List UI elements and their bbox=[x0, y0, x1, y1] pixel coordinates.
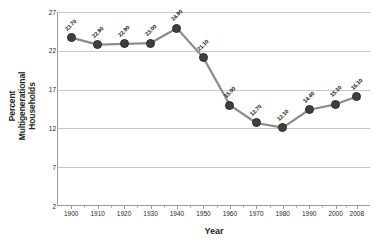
x-tick-mark bbox=[336, 206, 337, 209]
data-point-label: 22.80 bbox=[90, 25, 104, 39]
x-axis-title: Year bbox=[58, 226, 370, 236]
x-minor-tick-mark bbox=[137, 206, 138, 208]
chart-container: Percent Multigenerational Households 271… bbox=[0, 0, 382, 246]
y-tick-label: 7 bbox=[40, 164, 56, 171]
y-tick-label: 12 bbox=[40, 125, 56, 132]
x-minor-tick-mark bbox=[111, 206, 112, 208]
x-minor-tick-mark bbox=[164, 206, 165, 208]
data-point bbox=[172, 24, 181, 33]
x-minor-tick-mark bbox=[243, 206, 244, 208]
y-axis-ticks: 2712172227 bbox=[38, 0, 56, 212]
data-point bbox=[67, 33, 76, 42]
x-tick-mark bbox=[203, 206, 204, 209]
x-axis-ticks: 1900191019201930194019501960197019801990… bbox=[58, 206, 370, 222]
y-axis-title-line-3: Households bbox=[27, 72, 37, 141]
x-minor-tick-mark bbox=[296, 206, 297, 208]
data-point-label: 12.70 bbox=[249, 103, 263, 117]
x-minor-tick-mark bbox=[217, 206, 218, 208]
data-point bbox=[199, 53, 208, 62]
data-point-label: 21.10 bbox=[196, 38, 210, 52]
data-point bbox=[278, 123, 287, 132]
data-point bbox=[225, 101, 234, 110]
x-tick-mark bbox=[177, 206, 178, 209]
data-point-label: 16.10 bbox=[350, 77, 364, 91]
x-tick-label: 2008 bbox=[342, 210, 372, 217]
y-tick-label: 17 bbox=[40, 86, 56, 93]
x-minor-tick-mark bbox=[84, 206, 85, 208]
y-tick-label: 22 bbox=[40, 47, 56, 54]
data-point-label: 23.00 bbox=[143, 23, 157, 37]
data-point bbox=[120, 39, 129, 48]
x-tick-mark bbox=[357, 206, 358, 209]
x-minor-tick-mark bbox=[322, 206, 323, 208]
data-point-label: 12.10 bbox=[275, 108, 289, 122]
data-point-label: 22.90 bbox=[117, 24, 131, 38]
x-tick-mark bbox=[256, 206, 257, 209]
data-point bbox=[352, 92, 361, 101]
y-tick-label: 27 bbox=[40, 9, 56, 16]
data-point-label: 14.40 bbox=[302, 90, 316, 104]
data-point bbox=[146, 39, 155, 48]
data-point-label: 23.70 bbox=[64, 18, 78, 32]
data-point-label: 24.90 bbox=[170, 8, 184, 22]
x-minor-tick-mark bbox=[270, 206, 271, 208]
x-minor-tick-mark bbox=[190, 206, 191, 208]
data-point-layer: 23.7022.8022.9023.0024.9021.1015.0012.70… bbox=[58, 12, 370, 206]
x-minor-tick-mark bbox=[346, 206, 347, 208]
x-tick-mark bbox=[309, 206, 310, 209]
y-axis-title-line-2: Multigenerational bbox=[17, 72, 27, 141]
data-point bbox=[252, 118, 261, 127]
x-tick-mark bbox=[124, 206, 125, 209]
y-axis-title-line-1: Percent bbox=[7, 72, 17, 141]
data-point bbox=[331, 100, 340, 109]
data-point-label: 15.10 bbox=[328, 85, 342, 99]
x-tick-mark bbox=[98, 206, 99, 209]
y-tick-label: 2 bbox=[40, 203, 56, 210]
x-tick-mark bbox=[151, 206, 152, 209]
data-point bbox=[93, 40, 102, 49]
plot-area: 23.7022.8022.9023.0024.9021.1015.0012.70… bbox=[58, 12, 370, 206]
data-point bbox=[305, 105, 314, 114]
x-tick-mark bbox=[230, 206, 231, 209]
x-tick-mark bbox=[71, 206, 72, 209]
x-tick-mark bbox=[283, 206, 284, 209]
data-point-label: 15.00 bbox=[223, 85, 237, 99]
